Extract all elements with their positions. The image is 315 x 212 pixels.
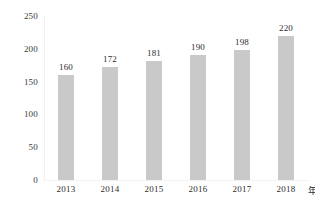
bar (58, 75, 74, 180)
x-axis-tick-label: 2017 (233, 184, 252, 194)
x-axis-tick-label: 2014 (101, 184, 120, 194)
bar-chart: 050100150200250 160172181190198220 20132… (0, 0, 315, 212)
bar-group: 160 (58, 16, 74, 180)
bar (190, 55, 206, 180)
x-axis-line (44, 180, 308, 181)
x-axis-unit-label: 年 (308, 184, 315, 197)
y-axis-tick-label: 0 (33, 175, 38, 185)
bar-value-label: 198 (235, 37, 249, 47)
y-axis-tick-label: 250 (24, 11, 38, 21)
bar-value-label: 220 (279, 23, 293, 33)
y-axis-tick-label: 100 (24, 109, 38, 119)
x-axis-tick-labels: 201320142015201620172018年 (44, 184, 308, 204)
bar (146, 61, 162, 180)
bar-group: 190 (190, 16, 206, 180)
bar-group: 172 (102, 16, 118, 180)
bar (102, 67, 118, 180)
x-axis-tick-label: 2015 (145, 184, 164, 194)
bar-value-label: 160 (59, 62, 73, 72)
bar (278, 36, 294, 180)
bar-value-label: 172 (103, 54, 117, 64)
y-axis-tick-label: 200 (24, 44, 38, 54)
x-axis-tick-label: 2016 (189, 184, 208, 194)
bar-value-label: 181 (147, 48, 161, 58)
bar-series: 160172181190198220 (44, 16, 308, 180)
bar-group: 181 (146, 16, 162, 180)
bar-group: 220 (278, 16, 294, 180)
y-axis-tick-label: 50 (29, 142, 38, 152)
x-axis-tick-label: 2013 (57, 184, 76, 194)
bar-group: 198 (234, 16, 250, 180)
bar (234, 50, 250, 180)
bar-value-label: 190 (191, 42, 205, 52)
x-axis-tick-label: 2018 (277, 184, 296, 194)
y-axis-tick-label: 150 (24, 77, 38, 87)
